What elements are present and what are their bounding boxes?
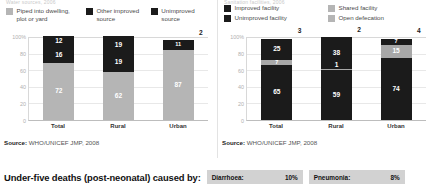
legend-swatch-icon (151, 8, 158, 15)
source-label: Source: (222, 139, 245, 146)
x-tick-label-total: Total (251, 123, 301, 129)
stat-label: Diarrhoea: (212, 174, 244, 181)
legend-label: Piped into dwelling, plot or yard (17, 7, 70, 23)
stacked-bar[interactable]: 19 19 62 (103, 36, 134, 120)
bar-value-label: 4 (417, 28, 421, 35)
stat-label: Pneumonia: (314, 174, 351, 181)
y-tick-label: 20 (238, 101, 244, 107)
bar-value-label: 59 (333, 92, 340, 99)
stacked-bar[interactable]: 4 7 15 74 (381, 36, 412, 120)
bar-group-rural: 19 19 62 (93, 37, 143, 120)
bar-value-label: 72 (55, 88, 62, 95)
bar-value-label: 3 (298, 28, 302, 35)
bar-segment-unimproved-facility[interactable]: 25 (261, 39, 292, 60)
bar-segment-piped-into-dwelling[interactable]: 72 (43, 63, 74, 120)
legend-swatch-icon (6, 8, 13, 15)
grid-water-sources: 12 16 72 (28, 37, 208, 121)
x-tick-label-urban: Urban (371, 123, 421, 129)
bar-value-label: 65 (273, 89, 280, 96)
bar-value-label: 16 (55, 52, 62, 59)
y-tick-label: 20 (20, 101, 26, 107)
chart-title-water-sources: Water sources, 2006 (6, 0, 56, 5)
bar-value-label: 62 (115, 93, 122, 100)
stat-value: 8% (390, 174, 399, 181)
bar-value-label: 11 (175, 42, 181, 48)
section-divider (0, 158, 431, 159)
bar-value-label: 15 (392, 48, 399, 55)
legend-sanitation-facilities: Improved facility Shared facility Unimpr… (224, 4, 428, 24)
bar-segment-improved-facility[interactable]: 1 59 (321, 70, 352, 120)
legend-label: Open defecation (339, 14, 384, 22)
legend-item-unimproved-facility[interactable]: Unimproved facility (224, 14, 328, 22)
stat-diarrhoea[interactable]: Diarrhoea: 10% (207, 170, 303, 184)
x-axis-sanitation-facilities: Total Rural Urban (246, 123, 426, 129)
bar-value-label: 38 (333, 50, 340, 57)
source-text: WHO/UNICEF JMP, 2008 (29, 139, 99, 146)
y-tick-label: 100% (12, 34, 26, 40)
bar-segment-unimproved-source[interactable]: 12 (43, 36, 74, 48)
y-tick-label: 40 (20, 84, 26, 90)
chart-panel-sanitation-facilities: Sanitation facilities, 2006 Improved fac… (217, 0, 431, 158)
bar-segment-other-improved-source[interactable]: 19 (103, 54, 134, 72)
legend-item-piped-into-dwelling[interactable]: Piped into dwelling, plot or yard (6, 7, 80, 23)
y-tick-label: 60 (20, 68, 26, 74)
y-axis-water-sources: 100% 80 60 40 20 0 (4, 37, 27, 121)
legend-label: Shared facility (339, 4, 378, 12)
bar-group-urban: 4 7 15 74 (371, 37, 421, 120)
y-tick-label: 40 (238, 84, 244, 90)
legend-label: Improved facility (235, 4, 280, 12)
legend-swatch-icon (328, 5, 335, 12)
stacked-bar[interactable]: 2 11 87 (163, 38, 194, 120)
bar-segment-other-improved-source[interactable]: 11 (163, 40, 194, 50)
y-tick-label: 0 (23, 118, 26, 124)
legend-label: Unimproved facility (235, 14, 287, 22)
legend-item-improved-facility[interactable]: Improved facility (224, 4, 328, 12)
bar-segment-piped-into-dwelling[interactable]: 62 (103, 72, 134, 120)
x-tick-label-rural: Rural (93, 123, 143, 129)
charts-container: Water sources, 2006 Piped into dwelling,… (0, 0, 431, 158)
bar-segment-other-improved-source[interactable]: 16 (43, 48, 74, 63)
legend-label: Other improved source (97, 7, 140, 23)
stat-pneumonia[interactable]: Pneumonia: 8% (309, 170, 405, 184)
bar-segment-shared-facility[interactable]: 15 (381, 45, 412, 58)
legend-swatch-icon (86, 8, 93, 15)
grid-sanitation-facilities: 3 25 7 65 (246, 37, 426, 121)
bar-segment-improved-facility[interactable]: 65 (261, 65, 292, 120)
bar-segment-piped-into-dwelling[interactable]: 87 (163, 50, 194, 120)
bar-segment-improved-facility[interactable]: 74 (381, 58, 412, 120)
bar-value-label: 7 (395, 39, 398, 45)
source-label: Source: (4, 139, 27, 146)
bar-value-label-shared: 1 (335, 62, 339, 69)
infographic-page: Water sources, 2006 Piped into dwelling,… (0, 0, 431, 191)
plot-area-water-sources: 100% 80 60 40 20 0 (4, 37, 210, 133)
x-tick-label-total: Total (33, 123, 83, 129)
bar-value-label: 7 (275, 60, 278, 66)
y-tick-label: 100% (230, 34, 244, 40)
stacked-bar[interactable]: 3 25 7 65 (261, 36, 292, 120)
bars-sanitation-facilities: 3 25 7 65 (247, 37, 426, 120)
legend-item-shared-facility[interactable]: Shared facility (328, 4, 428, 12)
legend-water-sources: Piped into dwelling, plot or yard Other … (6, 7, 210, 23)
y-tick-label: 60 (238, 68, 244, 74)
legend-item-unimproved-source[interactable]: Unimproved source (151, 7, 204, 23)
stacked-bar[interactable]: 2 38 1 59 (321, 35, 352, 120)
bars-water-sources: 12 16 72 (29, 37, 208, 120)
source-text: WHO/UNICEF JMP, 2008 (247, 139, 317, 146)
legend-item-other-improved-source[interactable]: Other improved source (86, 7, 145, 23)
under-five-deaths-band: Under-five deaths (post-neonatal) caused… (0, 163, 431, 191)
source-note-sanitation-facilities: Source: WHO/UNICEF JMP, 2008 (222, 139, 317, 146)
x-tick-label-urban: Urban (153, 123, 203, 129)
bar-value-label: 74 (392, 86, 399, 93)
y-tick-label: 80 (20, 51, 26, 57)
bar-group-urban: 2 11 87 (153, 37, 203, 120)
y-tick-label: 80 (238, 51, 244, 57)
bar-value-label: 87 (174, 82, 181, 89)
stacked-bar[interactable]: 12 16 72 (43, 36, 74, 120)
legend-item-open-defecation[interactable]: Open defecation (328, 14, 428, 22)
bar-value-label: 19 (115, 59, 122, 66)
bar-group-rural: 2 38 1 59 (311, 37, 361, 120)
bar-segment-unimproved-source[interactable]: 19 (103, 36, 134, 54)
x-tick-label-rural: Rural (311, 123, 361, 129)
y-axis-sanitation-facilities: 100% 80 60 40 20 0 (222, 37, 245, 121)
legend-swatch-icon (328, 15, 335, 22)
